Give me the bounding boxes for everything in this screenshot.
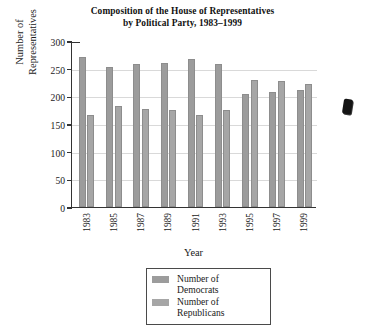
- x-axis-title: Year: [71, 247, 316, 258]
- bar-democrats-1999: [297, 90, 304, 207]
- bar-group: [161, 42, 177, 207]
- bar-group: [215, 42, 231, 207]
- chart-page: Composition of the House of Representati…: [0, 0, 365, 329]
- x-tick-label-1997: 1997: [272, 213, 282, 232]
- y-tick-label: 100: [51, 147, 65, 158]
- chart-title-line-1: Composition of the House of Representati…: [91, 6, 275, 16]
- x-tick-label-1985: 1985: [109, 213, 119, 232]
- x-tick-label-1995: 1995: [245, 213, 255, 232]
- legend-item-democrats: Number of Democrats: [152, 273, 265, 295]
- y-tick-label: 200: [51, 92, 65, 103]
- chart-legend: Number of Democrats Number of Republican…: [146, 268, 271, 325]
- bar-democrats-1989: [161, 63, 168, 207]
- bar-republicans-1997: [278, 81, 285, 207]
- y-axis-title: Number of Representatives: [14, 0, 34, 107]
- y-tick-mark: [67, 97, 72, 98]
- legend-label-democrats: Number of Democrats: [177, 273, 219, 295]
- legend-item-republicans: Number of Republicans: [152, 296, 265, 318]
- x-tick-label-1987: 1987: [136, 213, 146, 232]
- bar-democrats-1985: [106, 67, 113, 207]
- bar-republicans-1995: [251, 80, 258, 207]
- legend-swatch-republicans-icon: [152, 299, 169, 306]
- x-tick-label-1991: 1991: [191, 213, 201, 232]
- chart-title: Composition of the House of Representati…: [0, 6, 365, 29]
- bar-republicans-1985: [115, 106, 122, 207]
- bar-republicans-1991: [196, 115, 203, 207]
- legend-label-democrats-line-1: Number of: [177, 273, 219, 284]
- bar-democrats-1991: [188, 59, 195, 207]
- legend-label-republicans-line-2: Republicans: [177, 307, 224, 318]
- bar-democrats-1997: [269, 92, 276, 207]
- y-tick-label: 150: [51, 120, 65, 131]
- bar-republicans-1983: [87, 115, 94, 207]
- bar-group: [106, 42, 122, 207]
- bar-group: [188, 42, 204, 207]
- x-tick-label-1983: 1983: [82, 213, 92, 232]
- bar-group: [133, 42, 149, 207]
- scan-artifact-smudge: [342, 98, 353, 114]
- bar-group: [79, 42, 95, 207]
- y-tick-label: 0: [60, 203, 65, 214]
- bar-republicans-1989: [169, 110, 176, 207]
- bar-democrats-1987: [133, 64, 140, 207]
- y-tick-label: 250: [51, 64, 65, 75]
- legend-swatch-democrats-icon: [152, 276, 169, 283]
- y-tick-mark: [67, 41, 72, 42]
- legend-label-democrats-line-2: Democrats: [177, 284, 219, 295]
- bar-group: [242, 42, 258, 207]
- bar-group: [269, 42, 285, 207]
- x-tick-label-1993: 1993: [218, 213, 228, 232]
- legend-label-republicans-line-1: Number of: [177, 296, 219, 307]
- x-tick-label-1999: 1999: [299, 213, 309, 232]
- y-tick-label: 50: [55, 175, 65, 186]
- y-axis-title-line-2: Representatives: [27, 9, 38, 75]
- bar-group: [297, 42, 313, 207]
- bar-democrats-1993: [215, 64, 222, 207]
- y-tick-mark: [67, 180, 72, 181]
- plot-area: 0501001502002503001983198519871989199119…: [71, 42, 316, 208]
- y-tick-label: 300: [51, 37, 65, 48]
- y-axis-title-line-1: Number of: [14, 19, 25, 64]
- y-tick-mark: [67, 69, 72, 70]
- bar-democrats-1983: [79, 57, 86, 208]
- y-tick-mark: [67, 207, 72, 208]
- bar-republicans-1987: [142, 109, 149, 207]
- chart-title-line-2: by Political Party, 1983–1999: [0, 18, 365, 30]
- y-tick-mark: [67, 124, 72, 125]
- bar-republicans-1999: [305, 84, 312, 207]
- bar-democrats-1995: [242, 94, 249, 207]
- y-tick-mark: [67, 152, 72, 153]
- x-tick-label-1989: 1989: [163, 213, 173, 232]
- bar-republicans-1993: [223, 110, 230, 207]
- legend-label-republicans: Number of Republicans: [177, 296, 224, 318]
